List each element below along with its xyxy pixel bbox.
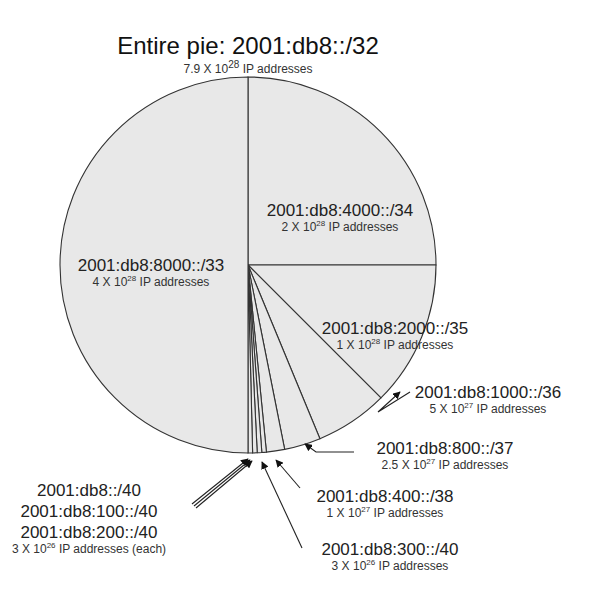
leader-40-b	[194, 460, 250, 506]
count-38: 1 X 1027 IP addresses	[310, 507, 460, 519]
leader-38	[276, 460, 300, 488]
leader-40-300	[262, 462, 302, 548]
count-34: 2 X 1028 IP addresses	[240, 221, 440, 233]
label-slice-34: 2001:db8:4000::/34 2 X 1028 IP addresses	[240, 202, 440, 233]
prefix-37: 2001:db8:800::/37	[360, 440, 530, 457]
label-slice-37: 2001:db8:800::/37 2.5 X 1027 IP addresse…	[360, 440, 530, 471]
count-37: 2.5 X 1027 IP addresses	[360, 459, 530, 471]
label-slice-33: 2001:db8:8000::/33 4 X 1028 IP addresses	[66, 257, 236, 288]
prefix-33: 2001:db8:8000::/33	[66, 257, 236, 274]
pie-slice	[248, 77, 436, 265]
chart-title: Entire pie: 2001:db8::/32 7.9 X 1028 IP …	[0, 34, 496, 75]
label-slice-38: 2001:db8:400::/38 1 X 1027 IP addresses	[310, 488, 460, 519]
count-33: 4 X 1028 IP addresses	[66, 276, 236, 288]
count-40-group: 3 X 1026 IP addresses (each)	[0, 543, 178, 555]
count-36: 5 X 1027 IP addresses	[398, 403, 578, 415]
leader-40-a	[192, 459, 248, 504]
title-sub: 7.9 X 1028 IP addresses	[0, 60, 496, 75]
prefix-100-40: 2001:db8:100::/40	[0, 503, 178, 520]
leader-40-c	[196, 461, 252, 508]
leader-37	[305, 444, 354, 452]
label-slice-300-40: 2001:db8:300::/40 3 X 1026 IP addresses	[310, 541, 470, 572]
count-300-40: 3 X 1026 IP addresses	[310, 560, 470, 572]
prefix-300-40: 2001:db8:300::/40	[310, 541, 470, 558]
prefix-0-40: 2001:db8::/40	[0, 482, 178, 499]
prefix-34: 2001:db8:4000::/34	[240, 202, 440, 219]
count-35: 1 X 1028 IP addresses	[310, 339, 480, 351]
prefix-35: 2001:db8:2000::/35	[310, 320, 480, 337]
label-slices-40-group: 2001:db8::/40 2001:db8:100::/40 2001:db8…	[0, 482, 178, 555]
prefix-36: 2001:db8:1000::/36	[398, 384, 578, 401]
prefix-200-40: 2001:db8:200::/40	[0, 524, 178, 541]
prefix-38: 2001:db8:400::/38	[310, 488, 460, 505]
label-slice-36: 2001:db8:1000::/36 5 X 1027 IP addresses	[398, 384, 578, 415]
label-slice-35: 2001:db8:2000::/35 1 X 1028 IP addresses	[310, 320, 480, 351]
title-main: Entire pie: 2001:db8::/32	[0, 34, 496, 58]
